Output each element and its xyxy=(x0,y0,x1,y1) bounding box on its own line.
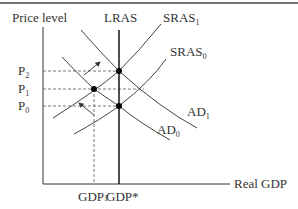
sras0-label: SRAS0 xyxy=(170,44,207,61)
equilibrium-point-p1 xyxy=(91,86,97,92)
gdp1-label: GDP1 xyxy=(78,189,108,204)
x-axis-label: Real GDP xyxy=(234,176,287,191)
p0-label: P0 xyxy=(18,98,29,115)
sras-shift-arrow xyxy=(79,103,94,115)
equilibrium-point-p0 xyxy=(116,103,122,109)
lras-label: LRAS xyxy=(104,10,137,25)
p1-label: P1 xyxy=(18,81,29,98)
ad0-curve xyxy=(62,57,170,140)
ad0-label: AD0 xyxy=(157,122,180,139)
sras1-label: SRAS1 xyxy=(163,10,200,27)
ad1-label: AD1 xyxy=(187,104,210,121)
gdp-star-label: GDP* xyxy=(106,189,139,204)
p2-label: P2 xyxy=(18,63,29,80)
equilibrium-point-p2 xyxy=(116,68,122,74)
y-axis-label: Price level xyxy=(12,10,68,25)
ad-as-diagram: Price level Real GDP LRAS SRAS1 SRAS0 AD… xyxy=(0,0,298,209)
ad-shift-arrow xyxy=(84,62,100,75)
